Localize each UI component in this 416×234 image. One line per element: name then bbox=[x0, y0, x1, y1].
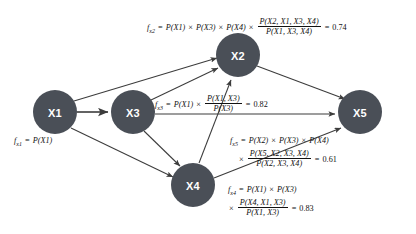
formula-x5-mul1: × bbox=[270, 136, 277, 145]
diagram-canvas: X1 X2 X3 X4 X5 fx2 = P(X1) × P(X3) bbox=[0, 0, 416, 234]
edge-x4-x2 bbox=[199, 80, 231, 163]
node-x4[interactable]: X4 bbox=[171, 163, 215, 207]
formula-x5-fraction: P(X5, X2, X3, X4) P(X2, X3, X4) bbox=[248, 149, 311, 169]
node-x3[interactable]: X3 bbox=[111, 90, 155, 134]
formula-x3-fraction: P(X1, X3) P(X3) bbox=[205, 94, 242, 114]
formula-x4-name: fx4 bbox=[228, 185, 236, 194]
formula-x5-mul3: × bbox=[238, 155, 245, 164]
formula-x2-term1: P(X1) bbox=[166, 23, 186, 32]
formula-x2-term3: P(X4) bbox=[226, 23, 246, 32]
formula-x4-value: 0.83 bbox=[299, 204, 313, 213]
node-x1-label: X1 bbox=[48, 107, 62, 119]
formula-x3-value: 0.82 bbox=[253, 100, 267, 109]
formula-x3-numerator: P(X1, X3) bbox=[205, 94, 242, 104]
formula-x4-numerator: P(X4, X1, X3) bbox=[238, 198, 288, 208]
formula-x4-mul1: × bbox=[268, 185, 275, 194]
node-x2[interactable]: X2 bbox=[216, 33, 260, 77]
formula-x2-term2: P(X3) bbox=[196, 23, 216, 32]
formula-x1-equals: = bbox=[24, 136, 31, 145]
formula-x5-denominator: P(X2, X3, X4) bbox=[248, 159, 311, 168]
formula-x5: fx5 = P(X2) × P(X3) × P(X4) × P(X5, X2, … bbox=[230, 136, 337, 170]
node-x2-label: X2 bbox=[231, 50, 245, 62]
formula-x5-line1: fx5 = P(X2) × P(X3) × P(X4) bbox=[230, 136, 337, 148]
formula-x4-mul2: × bbox=[228, 204, 235, 213]
formula-x4-term1: P(X1) bbox=[247, 185, 267, 194]
formula-x2-fraction: P(X2, X1, X3, X4) P(X1, X3, X4) bbox=[258, 17, 321, 37]
formula-x5-term3: P(X4) bbox=[309, 136, 329, 145]
node-x5[interactable]: X5 bbox=[338, 90, 382, 134]
node-x1[interactable]: X1 bbox=[33, 90, 77, 134]
formula-x4-denominator: P(X1, X3) bbox=[238, 208, 288, 217]
formula-x5-numerator: P(X5, X2, X3, X4) bbox=[248, 149, 311, 159]
formula-x3-term1: P(X1) bbox=[174, 100, 194, 109]
formula-x4-line2: × P(X4, X1, X3) P(X1, X3) = 0.83 bbox=[228, 199, 314, 219]
formula-x2-numerator: P(X2, X1, X3, X4) bbox=[258, 17, 321, 27]
edge-x2-x5 bbox=[257, 66, 345, 99]
formula-x5-term1: P(X2) bbox=[249, 136, 269, 145]
node-x3-label: X3 bbox=[126, 107, 140, 119]
formula-x4-line1: fx4 = P(X1) × P(X3) bbox=[228, 185, 314, 197]
formula-x4-equals2: = bbox=[291, 204, 298, 213]
formula-x2-value: 0.74 bbox=[332, 23, 346, 32]
formula-x3-denominator: P(X3) bbox=[205, 104, 242, 113]
formula-x3-equals2: = bbox=[245, 100, 252, 109]
formula-x5-mul2: × bbox=[301, 136, 308, 145]
node-x4-label: X4 bbox=[186, 180, 201, 192]
formula-x4-equals: = bbox=[238, 185, 245, 194]
edge-x3-x4 bbox=[144, 131, 180, 166]
formula-x5-equals2: = bbox=[314, 155, 321, 164]
formula-x5-equals: = bbox=[240, 136, 247, 145]
formula-x2-denominator: P(X1, X3, X4) bbox=[258, 27, 321, 36]
formula-x1: fx1 = P(X1) bbox=[14, 136, 52, 148]
formula-x2-mul3: × bbox=[248, 23, 255, 32]
formula-x5-name: fx5 bbox=[230, 136, 238, 145]
edge-x1-x4 bbox=[71, 128, 173, 177]
formula-x2-equals2: = bbox=[324, 23, 331, 32]
formula-x4-term2: P(X3) bbox=[277, 185, 297, 194]
formula-x3-equals: = bbox=[165, 100, 172, 109]
node-group: X1 X2 X3 X4 X5 bbox=[33, 33, 382, 207]
formula-x1-term1: P(X1) bbox=[33, 136, 53, 145]
formula-x4-fraction: P(X4, X1, X3) P(X1, X3) bbox=[238, 198, 288, 218]
formula-x4: fx4 = P(X1) × P(X3) × P(X4, X1, X3) P(X1… bbox=[228, 185, 314, 219]
formula-x5-line2: × P(X5, X2, X3, X4) P(X2, X3, X4) = 0.61 bbox=[238, 150, 337, 170]
formula-x5-value: 0.61 bbox=[323, 155, 337, 164]
node-x5-label: X5 bbox=[353, 107, 367, 119]
formula-x5-term2: P(X3) bbox=[279, 136, 299, 145]
formula-x1-name: fx1 bbox=[14, 136, 22, 145]
formula-x3-name: fx3 bbox=[155, 100, 163, 109]
formula-x3: fx3 = P(X1) × P(X1, X3) P(X3) = 0.82 bbox=[155, 95, 268, 115]
formula-x2-mul1: × bbox=[187, 23, 194, 32]
formula-x2-equals: = bbox=[157, 23, 164, 32]
formula-x2-mul2: × bbox=[218, 23, 225, 32]
formula-x2-name: fx2 bbox=[147, 23, 155, 32]
formula-x2: fx2 = P(X1) × P(X3) × P(X4) × P(X2, X1, … bbox=[147, 18, 347, 38]
formula-x3-mul1: × bbox=[195, 100, 202, 109]
